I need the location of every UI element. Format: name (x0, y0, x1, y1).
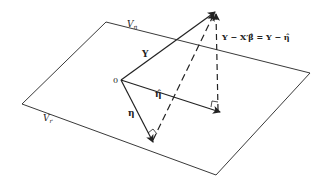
plane-vr (22, 22, 310, 175)
label-vector-eta: η (128, 108, 135, 118)
label-plane-vn: Vn (127, 19, 138, 30)
label-vector-eta-hat: η̂ (155, 89, 162, 99)
label-residual-equation: Y − X′β̂ = Y − η̂ (221, 32, 290, 42)
projection-diagram: Vn Vr 0 Y η̂ η Y − X′β̂ = Y − η̂ (0, 0, 324, 181)
label-origin: 0 (113, 76, 118, 85)
right-angle-mark-eta (148, 129, 157, 134)
right-angle-mark-eta-hat (211, 101, 218, 107)
vector-eta-hat (121, 80, 220, 112)
dashed-eta-to-y (153, 14, 214, 140)
residual-dashed-vertical (216, 14, 218, 110)
label-vector-y: Y (141, 49, 149, 59)
